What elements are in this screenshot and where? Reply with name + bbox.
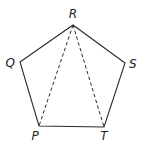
pentagon-outline — [20, 25, 125, 127]
vertex-label-t: T — [100, 129, 109, 143]
vertex-label-p: P — [31, 129, 39, 143]
diagonal-rp — [39, 25, 73, 126]
pentagon-diagram: R S T P Q — [0, 0, 142, 144]
diagonal-rt — [73, 25, 104, 127]
vertex-label-r: R — [69, 7, 77, 21]
vertex-label-s: S — [129, 57, 137, 71]
vertex-label-q: Q — [6, 56, 15, 70]
